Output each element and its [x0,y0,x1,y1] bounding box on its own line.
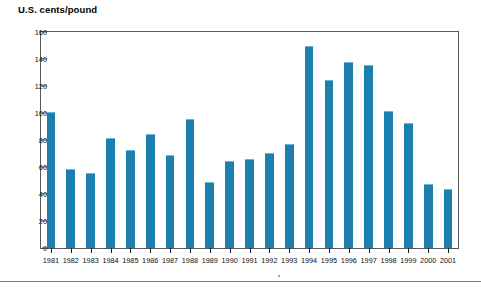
bar [106,138,115,248]
y-axis-title: U.S. cents/pound [18,4,97,15]
x-tick-mark [289,248,290,253]
bar [344,62,353,248]
x-tick-label: 1983 [83,256,99,265]
x-tick-mark [309,248,310,253]
x-tick-label: 1994 [301,256,317,265]
x-tick-label: 1990 [222,256,238,265]
x-tick-label: 2001 [440,256,456,265]
x-tick-label: 1988 [182,256,198,265]
x-tick-mark [250,248,251,253]
bar [444,189,453,248]
bar [325,80,334,248]
x-tick-mark [389,248,390,253]
x-tick-mark [408,248,409,253]
x-tick-mark [269,248,270,253]
bar [166,155,175,248]
bar [364,65,373,248]
x-tick-mark [369,248,370,253]
bar [305,46,314,248]
x-tick-mark [71,248,72,253]
x-tick-mark [448,248,449,253]
x-tick-mark [130,248,131,253]
x-tick-mark [170,248,171,253]
x-tick-mark [210,248,211,253]
x-tick-mark [349,248,350,253]
x-tick-mark [190,248,191,253]
bar [245,159,254,248]
bar [265,153,274,249]
x-tick-label: 1987 [162,256,178,265]
x-tick-label: 2000 [420,256,436,265]
x-tick-mark [230,248,231,253]
bar [384,111,393,248]
x-tick-label: 1985 [122,256,138,265]
x-tick-label: 1981 [43,256,59,265]
bar [47,112,56,248]
bar [205,182,214,248]
bar [126,150,135,248]
bar [404,123,413,248]
bar [186,119,195,248]
x-tick-mark [329,248,330,253]
footer-dot [278,275,280,277]
bar [285,144,294,248]
x-tick-mark [150,248,151,253]
bar [225,161,234,248]
x-tick-mark [91,248,92,253]
x-tick-mark [51,248,52,253]
x-tick-label: 1998 [380,256,396,265]
bar [66,169,75,248]
x-tick-label: 1995 [321,256,337,265]
x-axis-ticks [41,248,458,253]
x-tick-label: 1982 [63,256,79,265]
x-tick-label: 1989 [202,256,218,265]
x-tick-label: 1984 [102,256,118,265]
x-tick-label: 1991 [241,256,257,265]
chart-figure: U.S. cents/pound 020406080100120140160 1… [0,0,481,292]
x-tick-mark [428,248,429,253]
x-tick-label: 1986 [142,256,158,265]
x-tick-mark [111,248,112,253]
x-tick-label: 1999 [400,256,416,265]
x-tick-label: 1993 [281,256,297,265]
bar [146,134,155,248]
x-tick-label: 1996 [341,256,357,265]
bar-series [41,32,458,248]
x-axis-labels: 1981198219831984198519861987198819891990… [41,256,458,270]
bar [424,184,433,248]
footer-divider [0,281,481,282]
x-tick-label: 1992 [261,256,277,265]
x-tick-label: 1997 [361,256,377,265]
bar [86,173,95,248]
